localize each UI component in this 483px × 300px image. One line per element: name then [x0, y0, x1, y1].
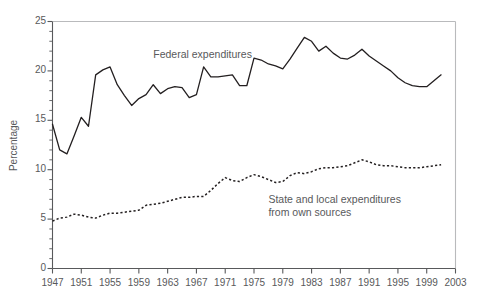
chart-plot-area	[0, 0, 483, 300]
x-tick-label: 2003	[436, 277, 476, 288]
y-tick-label: 5	[18, 212, 46, 223]
chart-figure: Percentage 0510152025 194719511955195919…	[0, 0, 483, 300]
y-tick-label: 15	[18, 113, 46, 124]
series-annotation-state-local-line1: State and local expenditures	[268, 193, 401, 206]
series-annotation-federal: Federal expenditures	[153, 48, 252, 61]
y-tick-label: 10	[18, 163, 46, 174]
y-tick-label: 25	[18, 15, 46, 26]
series-annotation-state-local-line2: from own sources	[268, 206, 401, 219]
y-tick-label: 0	[18, 262, 46, 273]
x-axis-ticks	[53, 269, 456, 274]
y-tick-label: 20	[18, 64, 46, 75]
y-axis-title: Percentage	[8, 106, 19, 186]
series-annotation-state-local: State and local expenditures from own so…	[268, 193, 401, 219]
y-axis-ticks	[48, 22, 53, 269]
